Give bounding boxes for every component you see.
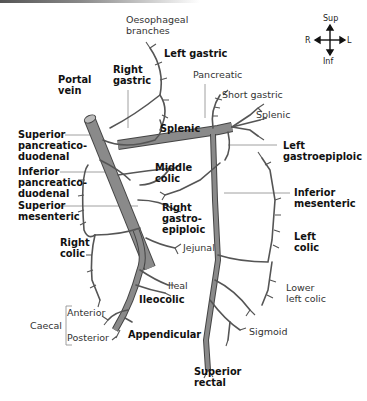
orientation-compass	[315, 25, 345, 55]
label-sup: Sup	[323, 13, 338, 24]
label-right-gastroepiploic: Right gastro- epiploic	[162, 202, 205, 235]
label-superior-rectal: Superior rectal	[194, 366, 241, 388]
label-ileal: Ileal	[168, 280, 188, 291]
label-short-gastric: Short gastric	[222, 89, 283, 100]
label-superior-pancreaticoduodenal: Superior pancreatico- duodenal	[18, 129, 87, 162]
label-jejunal: Jejunal	[183, 242, 215, 253]
label-right-gastric: Right gastric	[113, 64, 151, 86]
label-posterior: Posterior	[67, 332, 109, 343]
label-lower-left-colic: Lower left colic	[286, 282, 326, 304]
label-left-colic: Left colic	[294, 231, 319, 253]
label-ileocolic: Ileocolic	[139, 294, 184, 305]
label-oesophageal-branches: Oesophageal branches	[126, 14, 188, 36]
label-inf: Inf	[323, 56, 333, 67]
label-middle-colic: Middle colic	[155, 162, 192, 184]
label-splenic-branch: Splenic	[256, 109, 290, 120]
label-left-gastroepiploic: Left gastroepiploic	[283, 140, 362, 162]
label-left-gastric: Left gastric	[164, 48, 227, 59]
label-l: L	[347, 35, 351, 46]
label-portal-vein: Portal vein	[58, 74, 91, 96]
label-right-colic: Right colic	[60, 237, 90, 259]
label-inferior-pancreaticoduodenal: Inferior pancreatico- duodenal	[18, 166, 87, 199]
label-superior-mesenteric: Superior mesenteric	[18, 200, 80, 222]
label-caecal: Caecal	[30, 320, 62, 331]
label-anterior: Anterior	[67, 307, 105, 318]
label-inferior-mesenteric: Inferior mesenteric	[294, 187, 356, 209]
label-sigmoid: Sigmoid	[249, 326, 287, 337]
label-pancreatic: Pancreatic	[193, 69, 242, 80]
label-appendicular: Appendicular	[128, 329, 201, 340]
label-splenic: Splenic	[160, 123, 200, 134]
label-r: R	[305, 35, 311, 46]
